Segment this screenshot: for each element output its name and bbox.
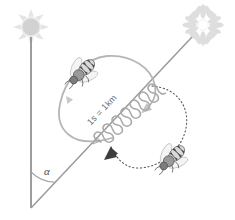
flower-icon [182, 4, 223, 45]
diagram-canvas: α [0, 0, 235, 220]
duration-distance-label: 1s = 1km [85, 93, 119, 128]
bee-lower [147, 136, 195, 183]
left-loop-arrowhead [66, 96, 73, 104]
waggle-direction-arrowhead [104, 146, 117, 160]
angle-label: α [44, 165, 50, 177]
waggle-dance-diagram: α [0, 0, 235, 220]
